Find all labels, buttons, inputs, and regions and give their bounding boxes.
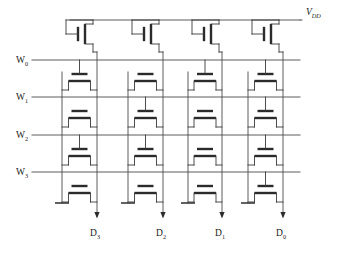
vdd-label-subscript: DD [311, 12, 321, 19]
bit-line-arrow [94, 212, 99, 219]
bit-line-label-d0-subscript: 0 [283, 233, 286, 240]
rom-array-schematic: VDDW0W1W2W3D3D2D1D0 [0, 0, 340, 255]
memory-cell-w0-d0 [248, 60, 283, 90]
word-line-label-w0-subscript: 0 [25, 60, 28, 67]
bit-line-label-d2-subscript: 2 [163, 233, 166, 240]
vdd-label: VDD [306, 7, 321, 19]
pmos-load-d2 [132, 20, 163, 52]
ground-rail-3 [241, 72, 255, 203]
word-line-label-w3-subscript: 3 [25, 172, 28, 179]
ground-rail-1 [121, 72, 135, 203]
pmos-load-d0 [252, 20, 283, 52]
bit-line-label-d3: D3 [90, 228, 100, 240]
word-line-label-w0-symbol: W [16, 55, 25, 65]
word-line-label-w3: W3 [16, 167, 28, 179]
memory-cell-w0-d2 [128, 74, 163, 90]
word-line-label-w3-symbol: W [16, 167, 25, 177]
word-line-label-w0: W0 [16, 55, 28, 67]
memory-cell-w2-d3 [62, 135, 97, 165]
word-line-label-w1: W1 [16, 92, 28, 104]
word-line-label-w2: W2 [16, 130, 28, 142]
word-line-label-w2-symbol: W [16, 130, 25, 140]
memory-cell-w0-d1 [188, 60, 222, 90]
memory-cell-w1-d2 [128, 97, 163, 127]
word-line-label-w2-subscript: 2 [25, 135, 28, 142]
memory-cell-w3-d1 [188, 186, 222, 202]
memory-cell-w3-d0 [248, 172, 283, 202]
bit-line-arrow [219, 212, 224, 219]
bit-line-arrow [280, 212, 285, 219]
bit-line-label-d1-subscript: 1 [222, 233, 225, 240]
memory-cell-matrix [62, 60, 283, 202]
bit-line-label-d1: D1 [215, 228, 225, 240]
word-line-label-w1-subscript: 1 [25, 97, 28, 104]
memory-cell-w2-d1 [188, 149, 222, 165]
pmos-load-bank [66, 20, 283, 52]
pmos-load-d1 [192, 20, 222, 52]
memory-cell-w3-d2 [128, 186, 163, 202]
ground-rail-2 [181, 72, 195, 203]
bit-line-arrow [160, 212, 165, 219]
ground-rail-0 [55, 72, 69, 203]
memory-cell-w1-d3 [62, 111, 97, 127]
memory-cell-w2-d0 [248, 135, 283, 165]
ground-rails [55, 72, 255, 203]
pmos-load-d3 [66, 20, 97, 52]
word-line-label-w1-symbol: W [16, 92, 25, 102]
bit-line-label-d2: D2 [156, 228, 166, 240]
memory-cell-w1-d1 [188, 111, 222, 127]
schematic-canvas: VDDW0W1W2W3D3D2D1D0 [0, 0, 340, 255]
memory-cell-w2-d2 [128, 135, 163, 165]
memory-cell-w1-d0 [248, 97, 283, 127]
memory-cell-w3-d3 [62, 186, 97, 202]
memory-cell-w0-d3 [62, 60, 97, 90]
bit-line-label-d0: D0 [276, 228, 286, 240]
bit-line-label-d3-subscript: 3 [97, 233, 100, 240]
